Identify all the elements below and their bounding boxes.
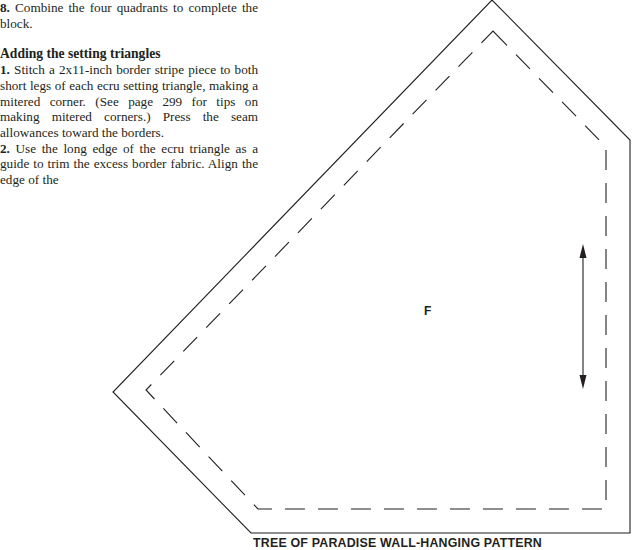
figure-caption: TREE OF PARADISE WALL-HANGING PATTERN (253, 536, 542, 550)
grainline-arrow-icon (580, 244, 587, 389)
outer-cut-line (113, 0, 630, 533)
inner-seam-line (146, 31, 606, 509)
piece-label: F (424, 304, 431, 318)
